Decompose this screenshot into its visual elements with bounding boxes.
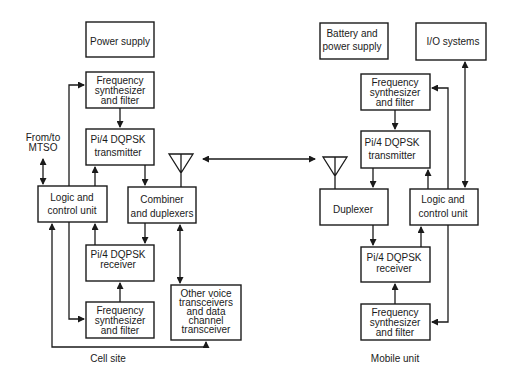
label-line: Logic and: [421, 194, 464, 205]
logic-to-freq-synth-rx-arrow: [69, 222, 84, 319]
label-line: Battery and: [326, 28, 377, 39]
label-line: I/O systems: [427, 36, 480, 47]
label-line: control unit: [48, 205, 97, 216]
cell-antenna-icon: [169, 154, 193, 187]
label-line: transmitter: [368, 150, 416, 161]
cell-site-caption: Cell site: [90, 353, 126, 364]
logic-to-freq-synth-rx-arrow: [432, 225, 448, 322]
label-line: and filter: [101, 95, 140, 106]
mobile-duplexer-label: Duplexer: [333, 204, 374, 215]
label-line: Pi/4 DQPSK: [90, 134, 145, 145]
cell-power-supply-label: Power supply: [90, 36, 150, 47]
cellular-system-block-diagram: Power supply Frequencysynthesizerand fil…: [0, 0, 509, 383]
mobile-unit-group: Battery andpower supply I/O systems Freq…: [320, 23, 486, 364]
label-line: Pi/4 DQPSK: [366, 252, 421, 263]
label-line: transceiver: [182, 324, 232, 335]
logic-to-freq-synth-tx-arrow: [69, 85, 84, 186]
mobile-freq-synth-rx-label: Frequencysynthesizerand filter: [370, 307, 421, 338]
label-line: control unit: [419, 208, 468, 219]
mobile-io-label: I/O systems: [427, 36, 480, 47]
cell-freq-synth-tx-label: Frequencysynthesizerand filter: [95, 75, 146, 106]
mobile-antenna-icon: [323, 157, 347, 189]
label-line: MTSO: [29, 142, 58, 153]
label-line: Logic and: [50, 192, 93, 203]
label-line: Duplexer: [333, 204, 374, 215]
label-line: receiver: [376, 263, 412, 274]
label-line: Combiner: [140, 194, 184, 205]
logic-to-freq-synth-tx-arrow: [432, 88, 448, 189]
mobile-unit-caption: Mobile unit: [371, 353, 420, 364]
label-line: power supply: [323, 41, 382, 52]
label-line: Power supply: [90, 36, 150, 47]
cell-freq-synth-rx-label: Frequencysynthesizerand filter: [95, 305, 146, 336]
mtso-label: From/toMTSO: [26, 132, 61, 153]
label-line: and filter: [376, 97, 415, 108]
label-line: Pi/4 DQPSK: [364, 137, 419, 148]
label-line: and filter: [101, 325, 140, 336]
label-line: and duplexers: [131, 208, 194, 219]
label-line: and filter: [376, 327, 415, 338]
label-line: receiver: [100, 259, 136, 270]
cell-other-transceivers-label: Other voicetransceiversand datachanneltr…: [179, 288, 233, 335]
mobile-freq-synth-tx-label: Frequencysynthesizerand filter: [370, 77, 421, 108]
label-line: transmitter: [94, 147, 142, 158]
cell-site-group: Power supply Frequencysynthesizerand fil…: [26, 22, 241, 364]
